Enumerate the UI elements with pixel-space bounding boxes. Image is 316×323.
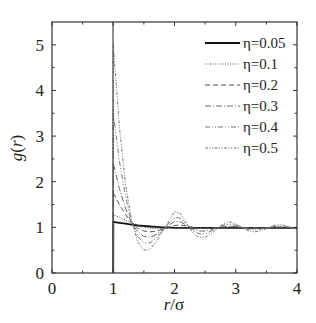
- y-tick-label: 2: [36, 173, 45, 192]
- y-tick-label: 4: [36, 81, 45, 100]
- gr-chart: 01234012345 η=0.05η=0.1η=0.2η=0.3η=0.4η=…: [0, 0, 316, 323]
- legend-entry-label: η=0.4: [243, 119, 279, 135]
- legend-entry-label: η=0.5: [243, 140, 278, 156]
- y-tick-label: 1: [36, 218, 45, 237]
- series-line-1: [113, 215, 297, 273]
- series-line-4: [113, 113, 297, 273]
- y-tick-label: 0: [36, 264, 45, 283]
- series-line-2: [113, 193, 297, 273]
- x-tick-label: 1: [109, 279, 118, 298]
- x-axis-label: r/σ: [164, 295, 185, 314]
- x-tick-label: 3: [232, 279, 241, 298]
- legend-entry-label: η=0.05: [243, 35, 286, 51]
- legend-entry-label: η=0.2: [243, 77, 278, 93]
- series-line-0: [113, 222, 297, 273]
- y-tick-label: 3: [36, 127, 45, 146]
- series-line-3: [113, 164, 297, 274]
- x-tick-label: 4: [293, 279, 302, 298]
- x-tick-label: 0: [48, 279, 57, 298]
- legend-entry-label: η=0.1: [243, 56, 278, 72]
- y-tick-label: 5: [36, 36, 45, 55]
- legend: η=0.05η=0.1η=0.2η=0.3η=0.4η=0.5: [205, 35, 286, 156]
- legend-entry-label: η=0.3: [243, 98, 278, 114]
- y-axis-label: g(r): [7, 135, 26, 161]
